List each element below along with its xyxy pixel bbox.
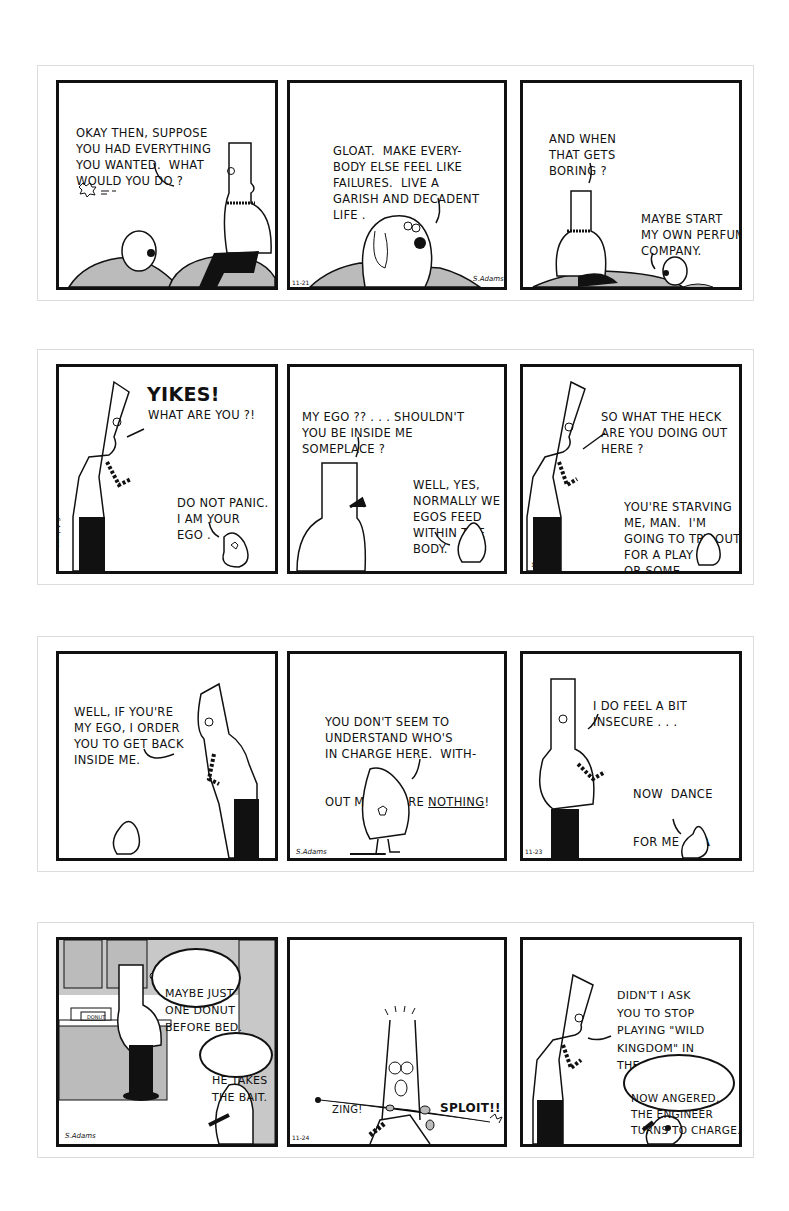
strip2-panel1: YIKES! WHAT ARE YOU ?! DO NOT PANIC.I AM… xyxy=(56,364,278,574)
strip1-panel3: AND WHENTHAT GETSBORING ? MAYBE STARTMY … xyxy=(520,80,742,290)
dilbert-back-dogbert-illustration xyxy=(523,83,739,287)
strip-date: 11-24 xyxy=(292,1134,309,1141)
comic-strip-2: YIKES! WHAT ARE YOU ?! DO NOT PANIC.I AM… xyxy=(37,349,754,585)
strip4-panel1: MAYBE JUSTONE DONUTBEFORE BED. HE TAKEST… xyxy=(56,937,278,1147)
strip-date: 11-22 xyxy=(531,561,548,568)
strip3-panel3: I DO FEEL A BITINSECURE . . . NOW DANCE … xyxy=(520,651,742,861)
artist-signature: S.Adams xyxy=(56,517,61,548)
comic-strip-1: OKAY THEN, SUPPOSEYOU HAD EVERYTHINGYOU … xyxy=(37,65,754,301)
dogbert-close-up-illustration xyxy=(290,83,504,287)
dilbert-back-ego-illustration xyxy=(290,367,504,571)
sfx-zing: ZING! xyxy=(332,1102,363,1118)
dilbert-insecure-ego-dances-illustration xyxy=(523,654,739,858)
dilbert-meets-ego-illustration xyxy=(59,367,275,571)
strip1-panel1: OKAY THEN, SUPPOSEYOU HAD EVERYTHINGYOU … xyxy=(56,80,278,290)
sfx-sploit: SPLOIT!! xyxy=(440,1100,501,1116)
strip-date: 11-23 xyxy=(525,848,542,855)
dogbert-thought: HE TAKESTHE BAIT. xyxy=(212,1038,268,1140)
artist-signature: S.Adams xyxy=(473,275,504,283)
artist-signature: S.Adams xyxy=(296,848,327,856)
strip2-panel3: SO WHAT THE HECKARE YOU DOING OUTHERE ? … xyxy=(520,364,742,574)
donut-box-label: DONUT xyxy=(87,1014,105,1020)
strip2-panel2: MY EGO ?? . . . SHOULDN'TYOU BE INSIDE M… xyxy=(287,364,507,574)
comic-strip-3: WELL, IF YOU'REMY EGO, I ORDERYOU TO GET… xyxy=(37,636,754,872)
strip3-panel1: WELL, IF YOU'REMY EGO, I ORDERYOU TO GET… xyxy=(56,651,278,861)
dilbert-dogbert-on-rocks-illustration xyxy=(59,83,275,287)
strip4-panel3: DIDN'T I ASKYOU TO STOPPLAYING "WILDKING… xyxy=(520,937,742,1147)
comic-strip-4: MAYBE JUSTONE DONUTBEFORE BED. HE TAKEST… xyxy=(37,922,754,1158)
dilbert-leaning-ego-illustration xyxy=(523,367,739,571)
dilbert-orders-ego-illustration xyxy=(59,654,275,858)
ego-close-up-illustration xyxy=(290,654,504,858)
strip4-panel2: ZING! SPLOIT!! 11-24 xyxy=(287,937,507,1147)
strip1-panel2: GLOAT. MAKE EVERY-BODY ELSE FEEL LIKEFAI… xyxy=(287,80,507,290)
strip-date: 11-21 xyxy=(292,279,309,286)
artist-signature: S.Adams xyxy=(65,1132,96,1140)
dogbert-thought: NOW ANGERED,THE ENGINEERTURNS TO CHARGE. xyxy=(631,1058,741,1147)
strip3-panel2: YOU DON'T SEEM TOUNDERSTAND WHO'SIN CHAR… xyxy=(287,651,507,861)
